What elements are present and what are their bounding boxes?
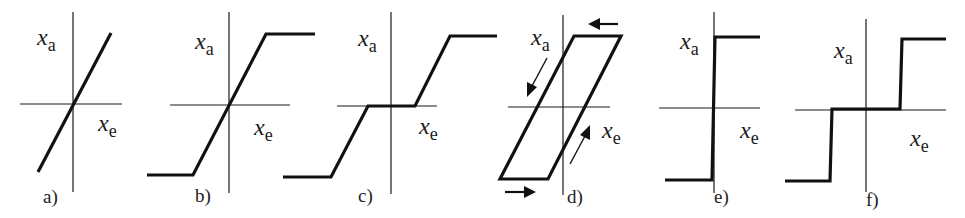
- right-arrow: [505, 186, 536, 198]
- panel-label: c): [358, 185, 373, 207]
- panel-label: b): [195, 185, 211, 207]
- left-arrow: [588, 18, 618, 30]
- nonlinear-characteristics-figure: xa xe a) xa xe b) xa xe c): [0, 0, 965, 218]
- vertical-axis-label: xa: [194, 28, 214, 59]
- vertical-axis-label: xa: [833, 37, 853, 68]
- vertical-axis-label: xa: [36, 24, 56, 55]
- panel-a: xa xe a): [20, 12, 122, 208]
- horizontal-axis-label: xe: [253, 114, 273, 145]
- panel-c: xa xe c): [283, 12, 497, 207]
- panel-e: xa xe e): [659, 12, 760, 208]
- panel-label: f): [866, 189, 879, 211]
- vertical-axis-label: xa: [530, 24, 550, 55]
- panel-d: xa xe d): [500, 15, 621, 208]
- panel-label: d): [567, 186, 583, 208]
- horizontal-axis-label: xe: [418, 113, 438, 144]
- panel-f: xa xe f): [785, 19, 946, 211]
- dead-zone-characteristic-curve: [283, 36, 497, 177]
- vertical-axis-label: xa: [679, 28, 699, 59]
- horizontal-axis-label: xe: [909, 125, 929, 156]
- horizontal-axis-label: xe: [739, 117, 759, 148]
- panel-label: a): [43, 186, 58, 208]
- vertical-axis-label: xa: [357, 25, 377, 56]
- horizontal-axis-label: xe: [97, 110, 117, 141]
- horizontal-axis-label: xe: [601, 117, 621, 148]
- panel-label: e): [714, 186, 729, 208]
